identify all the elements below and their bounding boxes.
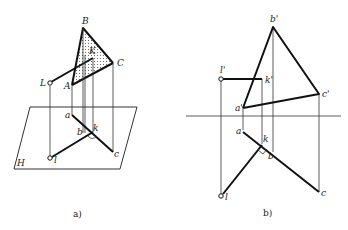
label-A: A [63,81,71,91]
label-B: B [81,16,89,26]
projection-lk [52,132,93,157]
label-l-prime: l' [220,65,225,75]
point-l-prime [219,77,223,81]
label-b: b [77,127,83,137]
label-c: c [114,149,119,159]
label-a: a [65,110,70,120]
label-c-top: c [321,188,326,198]
diagram-canvas: B C A K L a b k c l H a) b' c' a' [0,0,348,230]
figure-b: b' c' a' l' k' a k b c l b) [186,14,341,218]
label-k-prime: k' [265,75,273,85]
top-line-ac [243,132,319,192]
figure-a: B C A K L a b k c l H a) [14,16,137,219]
label-C: C [117,58,124,68]
label-c-prime: c' [322,89,330,99]
label-l: l [54,155,57,165]
label-k-top: k [263,134,268,144]
plane-h [14,107,137,169]
label-K: K [88,46,97,56]
label-H: H [16,158,25,168]
label-L: L [39,78,46,88]
label-b-top: b [268,151,274,161]
point-L [48,81,52,85]
caption-b: b) [263,208,272,218]
front-triangle [243,27,319,108]
point-l [48,156,52,160]
label-l-top: l [225,192,228,202]
top-line-lk [223,145,262,194]
label-a-top: a [236,126,241,136]
point-l-top [219,194,223,198]
label-a-prime: a' [235,103,243,113]
caption-a: a) [73,209,82,219]
label-b-prime: b' [270,14,278,24]
label-k: k [93,123,98,133]
